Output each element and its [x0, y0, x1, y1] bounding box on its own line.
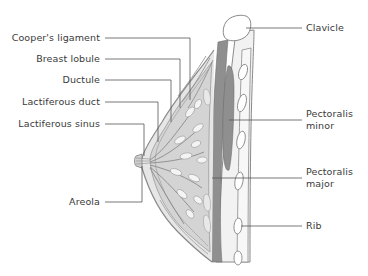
label-rib: Rib: [306, 220, 322, 232]
label-ductule: Ductule: [63, 74, 101, 86]
label-breast-lobule: Breast lobule: [36, 53, 100, 65]
label-lactiferous-duct: Lactiferous duct: [22, 96, 100, 108]
label-pectoralis-major-line1: Pectoralis: [306, 166, 353, 178]
label-clavicle: Clavicle: [306, 22, 344, 34]
label-pectoralis-major: Pectoralis major: [306, 166, 353, 190]
label-coopers-ligament: Cooper's ligament: [12, 32, 100, 44]
breast-anatomy-diagram: Cooper's ligament Breast lobule Ductule …: [0, 0, 368, 276]
label-clavicle-text: Clavicle: [306, 22, 344, 34]
label-areola: Areola: [69, 196, 100, 208]
label-pectoralis-minor: Pectoralis minor: [306, 108, 353, 132]
label-pectoralis-major-line2: major: [306, 178, 353, 190]
label-lactiferous-sinus: Lactiferous sinus: [18, 118, 100, 130]
label-pectoralis-minor-line1: Pectoralis: [306, 108, 353, 120]
label-rib-text: Rib: [306, 220, 322, 232]
label-pectoralis-minor-line2: minor: [306, 120, 353, 132]
